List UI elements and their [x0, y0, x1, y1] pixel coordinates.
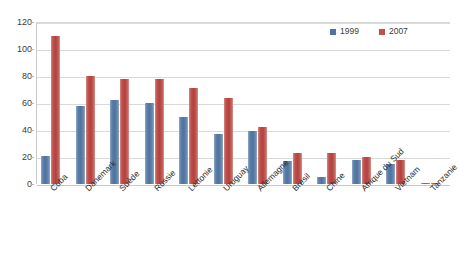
legend-entry: 2007: [379, 27, 408, 36]
bar-group: [243, 22, 278, 184]
bar-1999: [76, 106, 85, 184]
legend-swatch-icon: [379, 29, 385, 35]
bar-2007: [51, 36, 60, 185]
bar-1999: [41, 156, 50, 184]
y-axis-tick-label: 40: [2, 125, 32, 135]
bar-1999: [214, 134, 223, 184]
bar-2007: [155, 79, 164, 184]
x-axis-labels: CubaDanemarkSuèdeRussieLettonieUruguayAl…: [36, 186, 450, 252]
bar-group: [347, 22, 382, 184]
legend-label: 2007: [389, 27, 408, 36]
bar-1999: [179, 117, 188, 185]
bar-2007: [120, 79, 129, 184]
legend-label: 1999: [340, 27, 359, 36]
bar-group: [71, 22, 106, 184]
legend-swatch-icon: [330, 29, 336, 35]
y-axis-tick-mark: [31, 130, 34, 131]
y-axis-tick-label: 120: [2, 17, 32, 27]
bar-group: [36, 22, 71, 184]
bar-1999: [145, 103, 154, 184]
bar-group: [312, 22, 347, 184]
bar-chart: 020406080100120 CubaDanemarkSuèdeRussieL…: [0, 0, 459, 255]
bar-2007: [224, 98, 233, 184]
y-axis-tick-mark: [31, 22, 34, 23]
bar-2007: [189, 88, 198, 184]
y-axis-tick-mark: [31, 184, 34, 185]
bar-1999: [352, 160, 361, 184]
legend-entry: 1999: [330, 27, 359, 36]
y-axis-tick-mark: [31, 49, 34, 50]
legend: 19992007: [330, 27, 408, 36]
y-axis-tick-label: 60: [2, 98, 32, 108]
y-axis-tick-mark: [31, 103, 34, 104]
bar-group: [209, 22, 244, 184]
bar-1999: [317, 177, 326, 184]
bar-group: [416, 22, 451, 184]
bar-2007: [86, 76, 95, 184]
bar-1999: [248, 131, 257, 184]
y-axis-tick-label: 80: [2, 71, 32, 81]
bar-group: [140, 22, 175, 184]
y-axis-tick-mark: [31, 76, 34, 77]
y-axis-tick-mark: [31, 157, 34, 158]
y-axis: 020406080100120: [0, 22, 32, 184]
y-axis-tick-label: 20: [2, 152, 32, 162]
y-axis-tick-label: 100: [2, 44, 32, 54]
bar-group: [174, 22, 209, 184]
y-axis-tick-label: 0: [2, 179, 32, 189]
